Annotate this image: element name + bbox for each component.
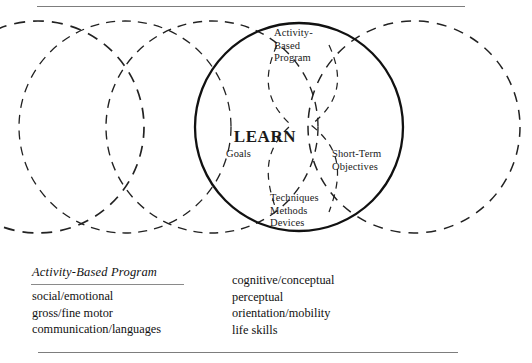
legend-heading: Activity-Based Program xyxy=(32,265,157,280)
list-item: perceptual xyxy=(232,289,334,306)
label-activity-based-program: Activity- Based Program xyxy=(274,27,313,65)
list-item: gross/fine motor xyxy=(32,305,161,322)
legend-column-right: cognitive/conceptual perceptual orientat… xyxy=(232,272,334,338)
label-goals: Goals xyxy=(226,148,251,161)
label-learn-text: LEARN xyxy=(234,127,297,146)
list-item: life skills xyxy=(232,322,334,339)
list-item: social/emotional xyxy=(32,288,161,305)
label-techniques-methods-devices: Techniques Methods Devices xyxy=(270,192,319,230)
legend-column-left: social/emotional gross/fine motor commun… xyxy=(32,288,161,338)
label-learn: LEARN xyxy=(0,118,532,143)
list-item: cognitive/conceptual xyxy=(232,272,334,289)
legend-heading-underline xyxy=(31,284,184,285)
legend-block: Activity-Based Program social/emotional … xyxy=(0,258,532,353)
list-item: communication/languages xyxy=(32,321,161,338)
figure-page: Activity- Based Program Goals Short-Term… xyxy=(0,0,532,363)
bottom-divider-rule xyxy=(38,352,458,353)
list-item: orientation/mobility xyxy=(232,305,334,322)
label-short-term-objectives: Short-Term Objectives xyxy=(332,148,381,173)
